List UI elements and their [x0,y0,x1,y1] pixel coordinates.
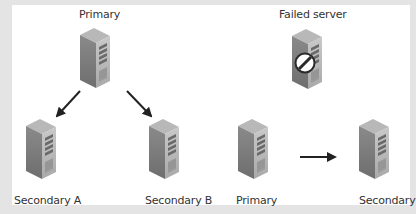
failed-server-icon [290,28,324,90]
server-icon [24,118,58,180]
primary-right-label: Primary [236,194,277,207]
secondary-b-label: Secondary B [145,194,212,207]
prohibited-icon [294,52,316,74]
failed-server-label: Failed server [279,8,347,21]
server-icon [357,118,391,180]
arrow-primary-to-secondary-b [127,91,151,116]
secondary-a-label: Secondary A [14,194,81,207]
server-icon [236,118,270,180]
secondary-right-label: Secondary [359,194,415,207]
server-icon [147,118,181,180]
replication-arrows-left [0,0,416,214]
arrow-primary-to-secondary-a [57,91,80,116]
